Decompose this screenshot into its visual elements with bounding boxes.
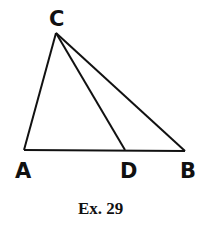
label-d: D <box>120 159 137 183</box>
figure-caption: Ex. 29 <box>78 199 123 218</box>
segment-cd <box>56 33 125 150</box>
label-a: A <box>15 159 32 183</box>
segment-cb <box>56 33 185 151</box>
triangle-diagram: C A D B Ex. 29 <box>0 0 207 231</box>
label-b: B <box>180 159 196 183</box>
segment-ca <box>24 33 56 150</box>
label-c: C <box>49 7 64 31</box>
segment-ab <box>24 150 185 151</box>
